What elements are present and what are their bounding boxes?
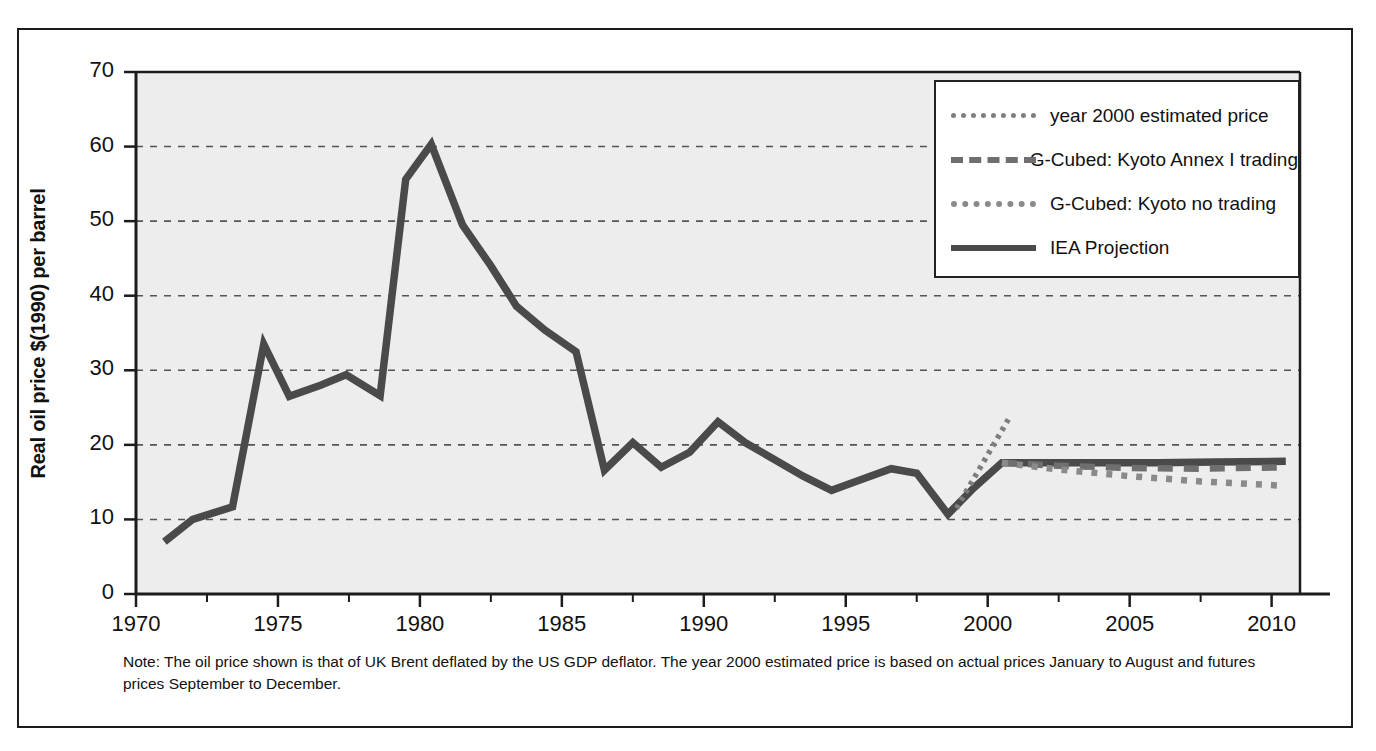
x-tick-label: 1990 bbox=[659, 611, 749, 637]
y-tick-label: 40 bbox=[62, 281, 114, 307]
x-tick-label: 1995 bbox=[801, 611, 891, 637]
legend-label: IEA Projection bbox=[1050, 237, 1169, 259]
y-tick-label: 70 bbox=[62, 57, 114, 83]
legend-label: G-Cubed: Kyoto no trading bbox=[1050, 193, 1276, 215]
legend-item: IEA Projection bbox=[936, 226, 1298, 270]
legend-label: G-Cubed: Kyoto Annex I trading bbox=[1030, 149, 1298, 171]
x-tick-label: 1985 bbox=[517, 611, 607, 637]
x-tick-label: 1975 bbox=[233, 611, 323, 637]
y-tick-label: 60 bbox=[62, 132, 114, 158]
y-tick-label: 20 bbox=[62, 430, 114, 456]
figure-note: Note: The oil price shown is that of UK … bbox=[123, 651, 1283, 695]
y-tick-label: 10 bbox=[62, 504, 114, 530]
x-tick-label: 2000 bbox=[943, 611, 1033, 637]
y-tick-label: 30 bbox=[62, 355, 114, 381]
figure-page: Real oil price $(1990) per barrel 010203… bbox=[0, 0, 1376, 751]
chart-legend: year 2000 estimated price G-Cubed: Kyoto… bbox=[934, 80, 1300, 278]
legend-item: G-Cubed: Kyoto Annex I trading bbox=[936, 138, 1298, 182]
legend-item: year 2000 estimated price bbox=[936, 94, 1298, 138]
x-tick-label: 2010 bbox=[1227, 611, 1317, 637]
y-tick-label: 50 bbox=[62, 206, 114, 232]
legend-item: G-Cubed: Kyoto no trading bbox=[936, 182, 1298, 226]
y-axis-label: Real oil price $(1990) per barrel bbox=[27, 104, 50, 564]
y-tick-label: 0 bbox=[62, 579, 114, 605]
x-tick-label: 2005 bbox=[1085, 611, 1175, 637]
x-tick-label: 1980 bbox=[375, 611, 465, 637]
legend-label: year 2000 estimated price bbox=[1050, 105, 1269, 127]
x-tick-label: 1970 bbox=[91, 611, 181, 637]
